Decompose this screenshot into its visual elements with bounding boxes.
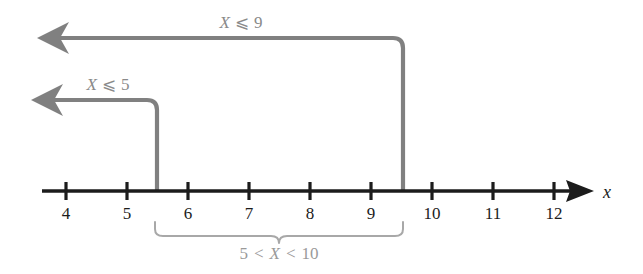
ray-x-le-9-label-value: 9 [254, 13, 263, 32]
axis-tick-labels-group: 456789101112 [62, 204, 563, 223]
axis-tick-label-12: 12 [546, 204, 563, 223]
axis-variable-label: x [602, 182, 611, 202]
axis-group [42, 180, 594, 202]
axis-arrowhead-icon [566, 180, 594, 202]
ray-x-le-5-label: X⩽5 [86, 75, 130, 94]
axis-tick-label-11: 11 [485, 204, 501, 223]
ray-x-le-9-path [58, 38, 403, 191]
ray-x-le-9-label-operator: ⩽ [235, 13, 249, 32]
axis-tick-label-5: 5 [123, 204, 132, 223]
brace-label-variable: X [269, 244, 281, 263]
ray-x-le-5-path [52, 100, 157, 191]
axis-tick-label-4: 4 [62, 204, 71, 223]
number-line-figure: 456789101112 x X⩽9 X⩽5 5<X<10 [0, 0, 643, 274]
axis-tick-label-9: 9 [367, 204, 376, 223]
ray-x-le-9-label: X⩽9 [219, 13, 263, 32]
axis-tick-label-8: 8 [306, 204, 315, 223]
interval-brace [155, 222, 403, 243]
interval-brace-label: 5<X<10 [239, 244, 318, 263]
ray-x-le-5-label-variable: X [86, 75, 98, 94]
ray-x-le-5-label-operator: ⩽ [102, 75, 116, 94]
ray-x-le-5-group [31, 84, 157, 191]
brace-label-upper: 10 [302, 244, 319, 263]
ray-x-le-9-group [37, 22, 403, 191]
brace-label-op2: < [286, 244, 296, 263]
axis-tick-label-6: 6 [184, 204, 193, 223]
brace-label-lower: 5 [239, 244, 248, 263]
axis-tick-label-7: 7 [245, 204, 254, 223]
number-line-diagram: 456789101112 x X⩽9 X⩽5 5<X<10 [0, 0, 643, 274]
ray-x-le-5-label-value: 5 [121, 75, 130, 94]
ray-x-le-9-label-variable: X [219, 13, 231, 32]
brace-label-op1: < [254, 244, 264, 263]
axis-tick-label-10: 10 [424, 204, 441, 223]
